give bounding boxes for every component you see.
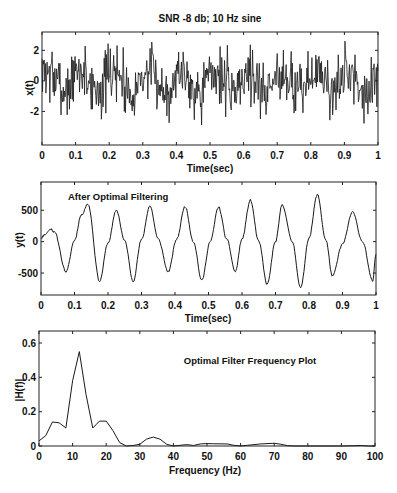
x-tick-label: 90	[336, 451, 348, 462]
x-tick-label: 0.4	[169, 150, 183, 161]
x-tick-label: 0.4	[168, 300, 182, 311]
axis-ticks: 00.10.20.30.40.50.60.70.80.91-202	[30, 32, 381, 161]
annotation: After Optimal Filtering	[68, 191, 168, 202]
x-tick-label: 50	[201, 451, 213, 462]
x-tick-label: 1	[375, 150, 381, 161]
y-tick-label: 0.2	[22, 406, 36, 417]
x-axis-label: Time(sec)	[185, 313, 232, 324]
x-tick-label: 0.7	[269, 300, 283, 311]
x-tick-label: 0.1	[68, 300, 82, 311]
x-tick-label: 1	[373, 300, 379, 311]
y-tick-label: 0	[33, 75, 39, 86]
x-tick-label: 0.2	[102, 150, 116, 161]
x-tick-label: 80	[302, 451, 314, 462]
x-tick-label: 0.9	[336, 300, 350, 311]
panel-title: SNR -8 db; 10 Hz sine	[159, 13, 262, 24]
x-axis-label: Frequency (Hz)	[169, 465, 241, 476]
y-tick-label: 2	[33, 45, 39, 56]
y-tick-label: -2	[30, 106, 39, 117]
x-tick-label: 0	[38, 300, 44, 311]
x-tick-label: 0.3	[135, 300, 149, 311]
figure: SNR -8 db; 10 Hz sine x(t) Time(sec) 00.…	[0, 0, 397, 493]
data-line	[41, 194, 376, 288]
x-tick-label: 0.5	[202, 300, 216, 311]
y-tick-label: 0.6	[22, 338, 36, 349]
x-tick-label: 30	[134, 451, 146, 462]
x-tick-label: 60	[235, 451, 247, 462]
x-tick-label: 0.8	[302, 300, 316, 311]
x-tick-label: 0.8	[304, 150, 318, 161]
axis-ticks: 010203040506070809010000.20.40.6	[22, 331, 384, 462]
x-tick-label: 20	[101, 451, 113, 462]
x-tick-label: 40	[168, 451, 180, 462]
x-tick-label: 0.9	[337, 150, 351, 161]
x-tick-label: 10	[67, 451, 79, 462]
axes-box	[39, 331, 375, 446]
y-tick-label: -500	[18, 268, 38, 279]
y-tick-label: 500	[21, 205, 38, 216]
x-tick-label: 0	[39, 150, 45, 161]
x-tick-label: 0.6	[235, 300, 249, 311]
x-tick-label: 0.6	[237, 150, 251, 161]
panel-noisy-input: SNR -8 db; 10 Hz sine x(t) Time(sec) 00.…	[24, 13, 381, 174]
panel-filter-frequency: Optimal Filter Frequency Plot |H(f)| Fre…	[14, 331, 384, 476]
x-tick-label: 0.7	[270, 150, 284, 161]
x-tick-label: 70	[269, 451, 281, 462]
y-axis-label: y(t)	[14, 232, 25, 248]
x-axis-label: Time(sec)	[187, 163, 234, 174]
y-tick-label: 0	[32, 236, 38, 247]
x-tick-label: 0.5	[203, 150, 217, 161]
y-tick-label: 0	[30, 441, 36, 452]
x-tick-label: 0.3	[136, 150, 150, 161]
annotation: Optimal Filter Frequency Plot	[184, 355, 317, 366]
x-tick-label: 100	[367, 451, 384, 462]
panel-filtered-output: After Optimal Filtering y(t) Time(sec) 0…	[14, 182, 379, 324]
x-tick-label: 0	[36, 451, 42, 462]
data-line	[42, 41, 378, 125]
x-tick-label: 0.1	[69, 150, 83, 161]
y-tick-label: 0.4	[22, 372, 36, 383]
x-tick-label: 0.2	[101, 300, 115, 311]
